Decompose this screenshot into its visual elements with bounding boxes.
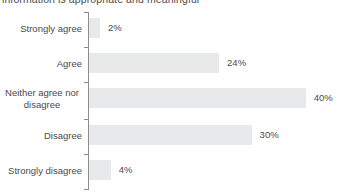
category-label: Strongly agree [0,23,82,35]
chart-row: Strongly agree 2% [0,18,342,52]
bar-value-label: 40% [314,88,333,108]
bar [89,18,100,38]
bar-chart: information is appropriate and meaningfu… [0,0,342,194]
bar [89,53,219,73]
plot-area: Strongly agree 2% Agree 24% Neither agre… [0,0,342,194]
category-label-line2: disagree [2,99,82,111]
bar-value-label: 30% [260,125,279,145]
chart-row: Agree 24% [0,53,342,87]
axis-tick [84,12,88,13]
category-label-line1: Neither agree nor [2,87,82,99]
bar [89,88,306,108]
chart-row: Strongly disagree 4% [0,160,342,194]
bar [89,160,111,180]
category-label: Strongly disagree [0,165,82,177]
category-label: Agree [0,58,82,70]
chart-row: Neither agree nor disagree 40% [0,88,342,122]
bar-value-label: 2% [108,18,122,38]
chart-row: Disagree 30% [0,125,342,159]
category-label: Neither agree nor disagree [2,87,82,110]
bar-value-label: 24% [227,53,246,73]
bar [89,125,252,145]
category-label: Disagree [0,130,82,142]
bar-value-label: 4% [119,160,133,180]
